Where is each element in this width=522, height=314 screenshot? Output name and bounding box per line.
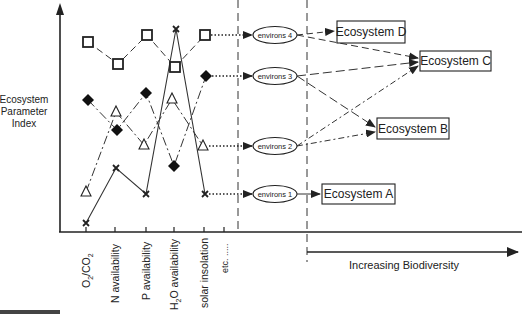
svg-text:environs 3: environs 3 <box>258 72 293 81</box>
x-markers <box>83 26 208 226</box>
environs-4: environs 4 <box>253 27 297 44</box>
biodiversity-arrow: Increasing Biodiversity <box>307 252 518 271</box>
link-env3-C <box>297 62 418 76</box>
ecosystem-d: Ecosystem D <box>336 21 407 43</box>
category-labels: O2/CO2 N availability P availability H2O… <box>80 238 230 310</box>
category-o2-co2: O2/CO2 <box>80 253 94 288</box>
category-solar-insolation: solar insolation <box>198 238 210 308</box>
ecosystem-links <box>297 31 418 194</box>
category-h2o-availability: H2O availability <box>168 238 182 310</box>
y-axis-label: Ecosystem Parameter Index <box>0 94 48 129</box>
environs-connectors <box>209 35 252 194</box>
svg-text:Ecosystem C: Ecosystem C <box>420 54 491 68</box>
y-axis-arrow-icon <box>56 3 64 15</box>
category-etc: etc. ..... <box>220 243 230 273</box>
caption-fragment <box>0 310 60 314</box>
square-markers <box>83 30 210 72</box>
svg-text:environs 2: environs 2 <box>258 142 293 151</box>
triangle-markers <box>81 93 208 196</box>
environs-1: environs 1 <box>253 186 297 203</box>
svg-text:environs 1: environs 1 <box>258 190 293 199</box>
environs-3: environs 3 <box>253 68 297 85</box>
link-env2-B <box>297 132 375 146</box>
link-env3-B <box>297 76 375 127</box>
svg-text:Ecosystem B: Ecosystem B <box>378 122 448 136</box>
environs-2: environs 2 <box>253 138 297 155</box>
svg-text:environs 4: environs 4 <box>258 31 293 40</box>
svg-text:Index: Index <box>12 118 36 129</box>
ecosystem-a: Ecosystem A <box>322 184 395 204</box>
svg-text:Ecosystem A: Ecosystem A <box>324 187 393 201</box>
ecosystem-diagram: Ecosystem Parameter Index O2/CO2 N avail… <box>0 0 522 314</box>
ecosystem-c: Ecosystem C <box>420 51 491 71</box>
svg-text:Ecosystem D: Ecosystem D <box>336 25 407 39</box>
svg-text:Parameter: Parameter <box>1 106 48 117</box>
link-env4-D <box>297 31 334 35</box>
category-n-availability: N availability <box>109 243 121 303</box>
svg-text:Ecosystem: Ecosystem <box>0 94 48 105</box>
biodiversity-label: Increasing Biodiversity <box>349 259 460 271</box>
category-p-availability: P availability <box>140 241 152 300</box>
ecosystem-b: Ecosystem B <box>377 118 449 139</box>
